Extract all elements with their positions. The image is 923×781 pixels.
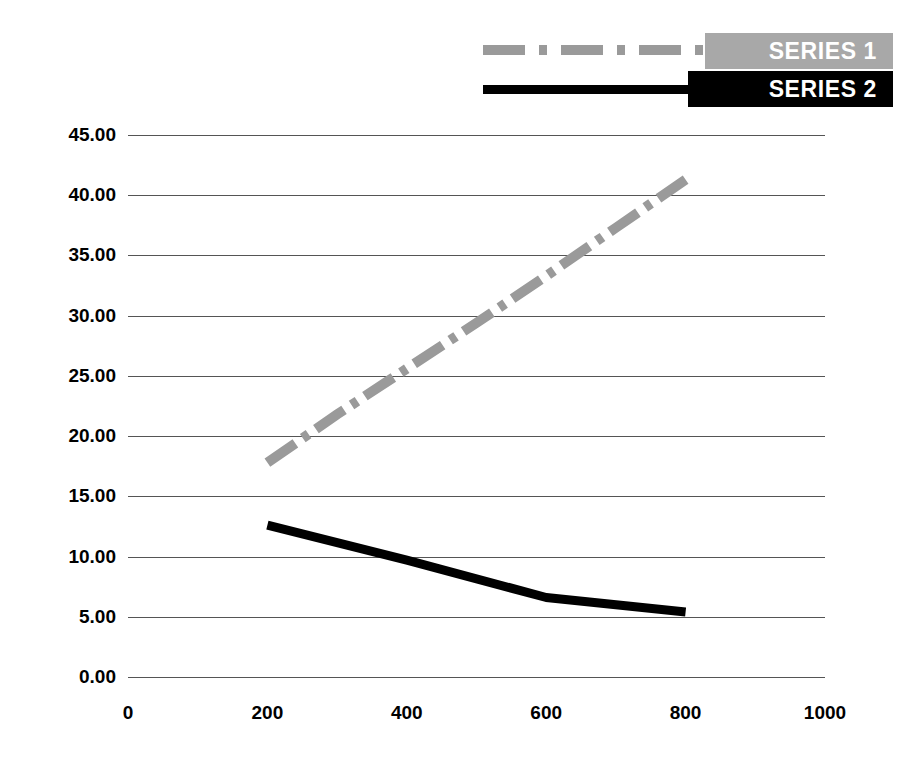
x-axis-tick-label: 200 (227, 702, 307, 724)
line-chart: SERIES 1 SERIES 2 0.005.0010.0015.0020.0… (0, 0, 923, 781)
x-axis-tick-label: 800 (646, 702, 726, 724)
x-axis-tick-label: 1000 (785, 702, 865, 724)
chart-legend: SERIES 1 SERIES 2 (483, 33, 893, 109)
y-axis-tick-label: 35.00 (28, 244, 116, 266)
series-layer (128, 135, 825, 677)
y-axis-tick-label: 20.00 (28, 425, 116, 447)
y-axis-tick-label: 10.00 (28, 546, 116, 568)
y-axis-tick-label: 30.00 (28, 305, 116, 327)
series-2-line (267, 525, 685, 612)
y-axis-tick-label: 5.00 (28, 606, 116, 628)
y-axis-tick-label: 25.00 (28, 365, 116, 387)
y-axis-tick-label: 15.00 (28, 485, 116, 507)
y-axis-tick-label: 0.00 (28, 666, 116, 688)
y-axis-tick-label: 40.00 (28, 184, 116, 206)
legend-swatch-series-1-icon (483, 45, 733, 55)
legend-item-series-1[interactable]: SERIES 1 (483, 33, 893, 69)
legend-label-series-2: SERIES 2 (688, 71, 893, 107)
series-1-line (267, 180, 685, 463)
x-axis-tick-label: 600 (506, 702, 586, 724)
legend-label-series-1: SERIES 1 (705, 33, 893, 69)
x-axis-tick-label: 0 (88, 702, 168, 724)
plot-area (128, 135, 825, 677)
gridline (128, 677, 825, 678)
x-axis-tick-label: 400 (367, 702, 447, 724)
legend-item-series-2[interactable]: SERIES 2 (483, 71, 893, 107)
y-axis-tick-label: 45.00 (28, 124, 116, 146)
